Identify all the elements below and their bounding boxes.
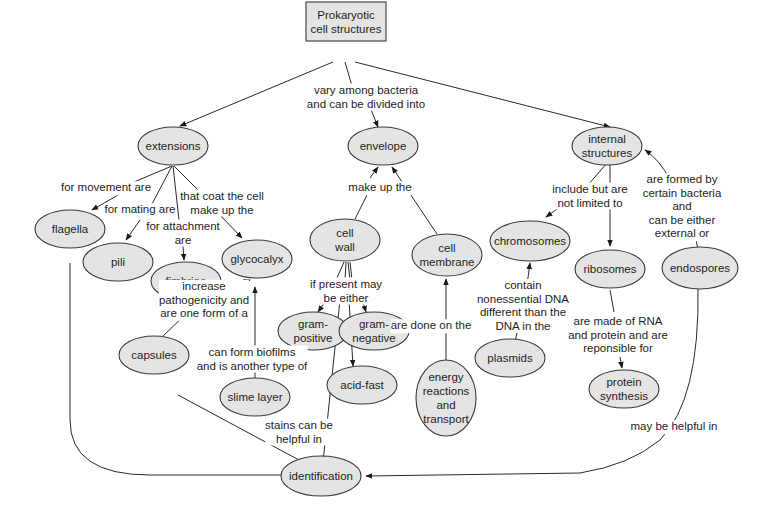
edge-ribosomes-protein bbox=[620, 357, 622, 368]
edge-ext-pili bbox=[126, 220, 140, 240]
envelope-label: envelope bbox=[360, 139, 407, 153]
capsules-label: capsules bbox=[131, 348, 176, 362]
edge-label-stains: stains can be helpful in bbox=[265, 419, 333, 446]
protein-synthesis-label: protein synthesis bbox=[600, 375, 648, 403]
internal-structures-label: internal structures bbox=[582, 132, 633, 160]
edge-label-done-on: are done on the bbox=[391, 319, 472, 333]
edge-ext-fimbriae bbox=[183, 246, 184, 260]
edge-label-made-of: are made of RNA and protein and are repo… bbox=[568, 315, 668, 356]
edge-ext-mating-a bbox=[152, 166, 172, 204]
edge-label-if-present: if present may be either bbox=[310, 278, 382, 305]
extensions-label: extensions bbox=[146, 139, 201, 153]
acid-fast-label: acid-fast bbox=[340, 378, 383, 392]
endospores-label: endospores bbox=[670, 261, 730, 275]
identification-label: identification bbox=[289, 469, 353, 483]
edge-ext-glycocalyx bbox=[220, 215, 242, 238]
edge-cellwall-envelope bbox=[370, 167, 378, 178]
slime-layer-label: slime layer bbox=[228, 390, 283, 404]
edge-label-biofilms: can form biofilms and is another type of bbox=[197, 346, 308, 373]
cell-membrane-label: cell membrane bbox=[420, 241, 475, 269]
edge-membrane-envelope bbox=[392, 167, 437, 234]
edge-label-include: include but are not limited to bbox=[552, 183, 627, 210]
gram-negative-label: gram- negative bbox=[352, 317, 395, 345]
edge-label-mating: for mating are bbox=[105, 203, 176, 217]
edge-label-contain: contain nonessential DNA different than … bbox=[477, 279, 569, 333]
pili-label: pili bbox=[111, 255, 125, 269]
edge-label-may-help: may be helpful in bbox=[631, 420, 718, 434]
edge-ribosomes-label bbox=[610, 290, 614, 312]
edge-label-coat: that coat the cell make up the bbox=[180, 190, 264, 217]
edge-label-movement: for movement are bbox=[61, 181, 151, 195]
edge-label-make-up: make up the bbox=[348, 181, 411, 195]
edge-label-root-children: vary among bacteria and can be divided i… bbox=[307, 84, 425, 111]
glycocalyx-label: glycocalyx bbox=[230, 252, 283, 266]
energy-reactions-label: energy reactions and transport bbox=[423, 370, 470, 426]
edge-ext-coat-a bbox=[174, 166, 200, 192]
edge-label-attachment: for attachment are bbox=[146, 220, 220, 247]
flagella-label: flagella bbox=[52, 222, 88, 236]
chromosomes-label: chromosomes bbox=[494, 234, 566, 248]
ribosomes-label: ribosomes bbox=[583, 262, 636, 276]
cell-wall-label: cell wall bbox=[335, 226, 355, 254]
gram-positive-label: gram- positive bbox=[294, 317, 333, 345]
edge-label-increase: increase pathogenicity and are one form … bbox=[159, 280, 249, 321]
root-node-label: Prokaryotic cell structures bbox=[311, 8, 382, 36]
edge-label-formed-by: are formed by certain bacteria and can b… bbox=[640, 173, 724, 241]
edge-root-label bbox=[345, 62, 352, 86]
plasmids-label: plasmids bbox=[487, 351, 532, 365]
